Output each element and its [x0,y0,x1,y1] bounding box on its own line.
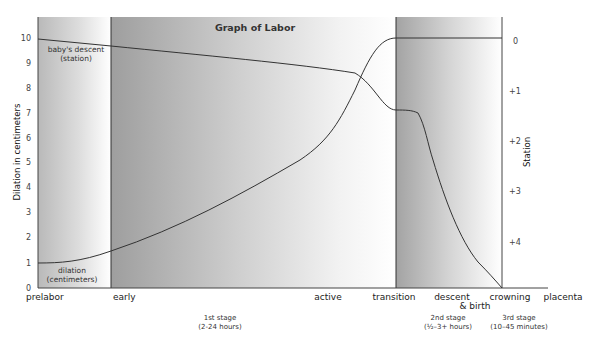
left-ticks: 10 9 8 7 6 5 4 3 2 1 0 [21,34,31,293]
second-stage-region [396,17,502,288]
phase-early: early [113,292,136,302]
svg-text:+4: +4 [509,238,521,247]
stage-1-duration: (2-24 hours) [198,323,242,331]
first-stage-region [111,17,396,288]
svg-text:3: 3 [26,208,31,217]
svg-text:8: 8 [26,84,31,93]
svg-text:+2: +2 [509,137,521,146]
phase-transition: transition [373,292,416,302]
svg-text:+1: +1 [509,87,521,96]
svg-text:5: 5 [26,158,31,167]
labor-graph: Graph of Labor 10 9 8 7 6 5 4 3 2 1 0 Di… [0,0,591,346]
phase-crowning: crowning [490,292,531,302]
descent-label-1: baby's descent [48,45,105,54]
stage-3-title: 3rd stage [502,314,535,322]
left-axis-label: Dilation in centimeters [12,103,22,200]
svg-text:10: 10 [21,34,31,43]
right-ticks: 0 +1 +2 +3 +4 [509,37,521,247]
phase-birth: & birth [459,301,490,311]
svg-text:9: 9 [26,59,31,68]
svg-text:0: 0 [513,37,518,46]
dilation-label-1: dilation [58,266,86,275]
stage-labels: 1st stage (2-24 hours) 2nd stage (½–3+ h… [198,314,548,331]
svg-text:1: 1 [26,259,31,268]
phase-active: active [314,292,342,302]
phase-labels: prelabor early active transition descent… [26,292,582,311]
chart-title: Graph of Labor [215,22,296,33]
stage-1-title: 1st stage [204,314,237,322]
stage-2-title: 2nd stage [431,314,466,322]
phase-placenta: placenta [544,292,583,302]
svg-text:7: 7 [26,109,31,118]
descent-label-2: (station) [60,54,92,63]
stage-3-duration: (10–45 minutes) [490,323,548,331]
phase-prelabor: prelabor [26,292,64,302]
svg-text:+3: +3 [509,187,521,196]
stage-2-duration: (½–3+ hours) [424,323,472,331]
dilation-label-2: (centimeters) [47,275,98,284]
right-axis-label: Station [522,137,532,167]
svg-text:4: 4 [26,183,31,192]
svg-text:6: 6 [26,134,31,143]
svg-text:2: 2 [26,233,31,242]
